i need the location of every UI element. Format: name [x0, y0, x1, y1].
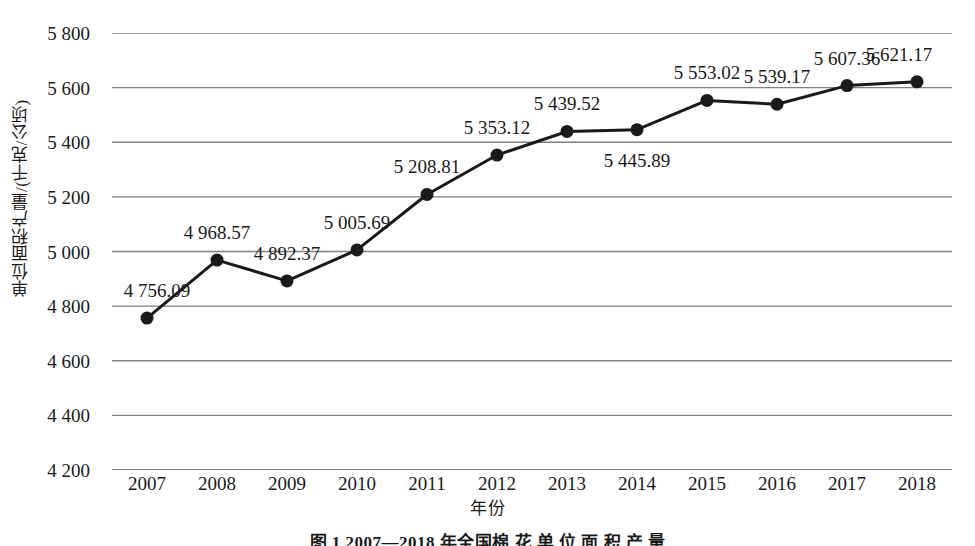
- x-tick-label: 2010: [338, 474, 376, 493]
- x-tick-label: 2007: [128, 474, 166, 493]
- y-tick-label: 5 400: [0, 133, 104, 152]
- y-tick-label: 4 400: [0, 406, 104, 425]
- data-point-marker[interactable]: [841, 79, 854, 92]
- data-point-marker[interactable]: [771, 98, 784, 111]
- data-point-marker[interactable]: [701, 94, 714, 107]
- data-point-label: 4 892.37: [254, 243, 321, 262]
- data-point-marker[interactable]: [141, 312, 154, 325]
- y-tick-label: 4 600: [0, 351, 104, 370]
- data-point-label: 5 208.81: [394, 157, 461, 176]
- data-point-marker[interactable]: [281, 274, 294, 287]
- y-tick-label: 5 000: [0, 242, 104, 261]
- x-tick-label: 2014: [618, 474, 656, 493]
- data-point-marker[interactable]: [631, 123, 644, 136]
- figure-caption: 图 1 2007—2018 年全国棉 花 单 位 面 积 产 量: [0, 528, 975, 546]
- data-point-label: 5 005.69: [324, 212, 391, 231]
- y-tick-label: 5 800: [0, 24, 104, 43]
- data-point-marker[interactable]: [491, 149, 504, 162]
- x-tick-label: 2008: [198, 474, 236, 493]
- x-tick-label: 2015: [688, 474, 726, 493]
- series-markers: [141, 75, 924, 324]
- x-tick-label: 2017: [828, 474, 866, 493]
- data-point-marker[interactable]: [421, 188, 434, 201]
- x-tick-label: 2013: [548, 474, 586, 493]
- data-point-label: 5 353.12: [464, 118, 531, 137]
- data-point-label: 5 621.17: [866, 44, 933, 63]
- x-tick-label: 2009: [268, 474, 306, 493]
- y-tick-label: 5 200: [0, 187, 104, 206]
- x-tick-label: 2011: [408, 474, 445, 493]
- series-line: [147, 82, 917, 318]
- data-point-label: 5 539.17: [744, 67, 811, 86]
- x-axis-title: 年份: [0, 494, 975, 519]
- figure-container: 单位面积产量/(千克/公顷) 4 2004 4004 6004 8005 000…: [0, 0, 975, 546]
- y-axis-tick-labels: 4 2004 4004 6004 8005 0005 2005 4005 600…: [0, 0, 104, 546]
- y-tick-label: 5 600: [0, 78, 104, 97]
- y-tick-label: 4 800: [0, 297, 104, 316]
- data-point-label: 5 445.89: [604, 150, 671, 169]
- data-point-marker[interactable]: [911, 75, 924, 88]
- x-tick-label: 2016: [758, 474, 796, 493]
- data-point-marker[interactable]: [211, 254, 224, 267]
- data-point-label: 4 968.57: [184, 223, 251, 242]
- data-point-marker[interactable]: [351, 243, 364, 256]
- x-tick-label: 2012: [478, 474, 516, 493]
- gridlines: [112, 33, 952, 470]
- data-point-label: 4 756.09: [124, 281, 191, 300]
- line-chart-svg: [112, 33, 952, 470]
- plot-area: 4 756.094 968.574 892.375 005.695 208.81…: [112, 33, 952, 470]
- x-tick-label: 2018: [898, 474, 936, 493]
- data-point-label: 5 439.52: [534, 94, 601, 113]
- data-point-marker[interactable]: [561, 125, 574, 138]
- data-point-label: 5 553.02: [674, 63, 741, 82]
